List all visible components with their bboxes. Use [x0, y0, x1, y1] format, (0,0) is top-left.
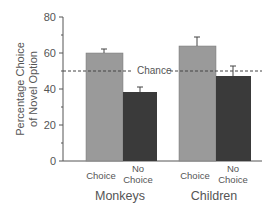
y-axis-label: Percentage Choice of Novel Option	[14, 42, 39, 136]
y-axis-label-line2: of Novel Option	[27, 51, 39, 127]
label-monkeys-choice: Choice	[86, 170, 116, 181]
bar-chart: Percentage Choice of Novel Option 80 60 …	[0, 0, 272, 211]
group-label-children: Children	[191, 189, 238, 203]
label-monkeys-nochoice: Choice	[123, 174, 153, 185]
label-children-choice: Choice	[180, 170, 210, 181]
x-category-labels: Choice No Choice Choice No Choice	[86, 163, 248, 185]
tick-label-60: 60	[44, 47, 56, 59]
label-monkeys-no: No	[132, 163, 144, 174]
y-ticks	[59, 17, 63, 161]
tick-label-20: 20	[44, 119, 56, 131]
label-children-no: No	[227, 163, 239, 174]
y-tick-labels: 80 60 40 20 0	[44, 11, 56, 167]
y-axis-label-line1: Percentage Choice	[14, 42, 26, 136]
bar-children-no-choice	[216, 76, 251, 161]
label-children-nochoice: Choice	[218, 174, 248, 185]
bar-monkeys-no-choice	[123, 92, 157, 161]
bar-children-choice	[179, 46, 216, 161]
group-label-monkeys: Monkeys	[95, 189, 145, 203]
tick-label-80: 80	[44, 11, 56, 23]
chance-label: Chance	[137, 65, 172, 76]
tick-label-0: 0	[50, 155, 56, 167]
bar-monkeys-choice	[86, 53, 123, 161]
tick-label-40: 40	[44, 83, 56, 95]
